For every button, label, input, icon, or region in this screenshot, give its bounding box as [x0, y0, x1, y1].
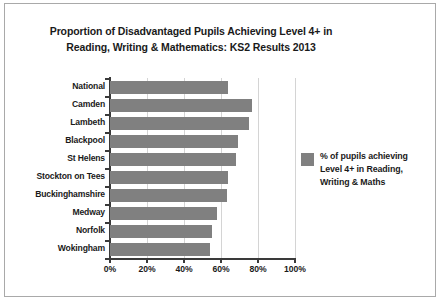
y-axis-label-blackpool: Blackpool — [7, 135, 105, 145]
x-axis-tick — [294, 258, 296, 263]
y-axis-label-norfolk: Norfolk — [7, 225, 105, 235]
bar-national[interactable] — [110, 81, 228, 94]
bar-blackpool[interactable] — [110, 135, 238, 148]
legend-label: % of pupils achieving Level 4+ in Readin… — [320, 150, 432, 189]
legend-label-line-1: % of pupils achieving — [320, 150, 432, 163]
x-axis-tick — [220, 258, 222, 263]
y-axis-label-st-helens: St Helens — [7, 153, 105, 163]
legend-color-swatch — [301, 153, 314, 166]
plot-area — [110, 78, 295, 258]
x-axis-label-0pct: 0% — [90, 264, 130, 274]
chart-title-line-2: Reading, Writing & Mathematics: KS2 Resu… — [5, 39, 377, 55]
legend-label-line-2: Level 4+ in Reading, — [320, 163, 432, 176]
y-axis-tick — [105, 150, 110, 152]
x-axis-line — [109, 258, 296, 260]
y-axis-label-stockton-on-tees: Stockton on Tees — [7, 171, 105, 181]
x-axis-tick — [146, 258, 148, 263]
chart-screenshot: Proportion of Disadvantaged Pupils Achie… — [0, 0, 441, 302]
y-axis-label-medway: Medway — [7, 207, 105, 217]
bar-medway[interactable] — [110, 207, 217, 220]
y-axis-label-national: National — [7, 81, 105, 91]
x-axis-label-20pct: 20% — [127, 264, 167, 274]
y-axis-tick — [105, 186, 110, 188]
y-axis-tick — [105, 114, 110, 116]
bar-wokingham[interactable] — [110, 243, 210, 256]
bar-stockton-on-tees[interactable] — [110, 171, 228, 184]
x-axis-tick — [257, 258, 259, 263]
y-axis-tick — [105, 258, 110, 260]
bar-row — [110, 168, 295, 186]
bar-row — [110, 186, 295, 204]
bar-row — [110, 114, 295, 132]
y-axis-tick — [105, 78, 110, 80]
y-axis-tick — [105, 132, 110, 134]
y-axis-label-camden: Camden — [7, 99, 105, 109]
bar-row — [110, 240, 295, 258]
bar-st-helens[interactable] — [110, 153, 236, 166]
gridline — [295, 78, 296, 258]
chart-title: Proportion of Disadvantaged Pupils Achie… — [5, 23, 377, 55]
y-axis-tick — [105, 168, 110, 170]
x-axis-label-60pct: 60% — [201, 264, 241, 274]
bar-row — [110, 96, 295, 114]
y-axis-category-labels: NationalCamdenLambethBlackpoolSt HelensS… — [5, 78, 105, 258]
bar-row — [110, 150, 295, 168]
y-axis-label-buckinghamshire: Buckinghamshire — [7, 189, 105, 199]
x-axis-label-80pct: 80% — [238, 264, 278, 274]
x-axis-tick — [183, 258, 185, 263]
x-axis-label-40pct: 40% — [164, 264, 204, 274]
y-axis-label-lambeth: Lambeth — [7, 117, 105, 127]
bar-norfolk[interactable] — [110, 225, 212, 238]
bar-camden[interactable] — [110, 99, 252, 112]
bar-row — [110, 222, 295, 240]
y-axis-tick — [105, 240, 110, 242]
x-axis-label-100pct: 100% — [275, 264, 315, 274]
legend-label-line-3: Writing & Maths — [320, 176, 432, 189]
bar-row — [110, 204, 295, 222]
y-axis-tick — [105, 204, 110, 206]
y-axis-tick — [105, 96, 110, 98]
chart-title-line-1: Proportion of Disadvantaged Pupils Achie… — [5, 23, 377, 39]
chart-frame: Proportion of Disadvantaged Pupils Achie… — [4, 3, 436, 297]
y-axis-tick — [105, 222, 110, 224]
bar-lambeth[interactable] — [110, 117, 249, 130]
bar-row — [110, 78, 295, 96]
bar-row — [110, 132, 295, 150]
y-axis-label-wokingham: Wokingham — [7, 243, 105, 253]
bar-buckinghamshire[interactable] — [110, 189, 227, 202]
